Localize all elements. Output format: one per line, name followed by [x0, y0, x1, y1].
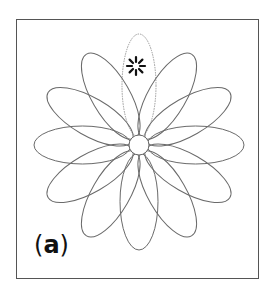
panel-label: (a): [34, 231, 69, 259]
petal: [147, 126, 244, 164]
petal: [70, 45, 151, 148]
petal: [34, 126, 131, 164]
petal: [70, 142, 151, 245]
petal: [127, 142, 208, 245]
panel-label-close-paren: ): [60, 231, 69, 259]
panel-label-letter: a: [43, 231, 59, 259]
petal: [120, 153, 158, 250]
petal: [127, 45, 208, 148]
petal: [39, 133, 142, 214]
center-ring: [129, 135, 149, 155]
petal: [136, 133, 239, 214]
petal: [136, 76, 239, 157]
asterisk-marker-icon: [127, 57, 145, 75]
panel-label-open-paren: (: [34, 231, 43, 259]
petal: [39, 76, 142, 157]
